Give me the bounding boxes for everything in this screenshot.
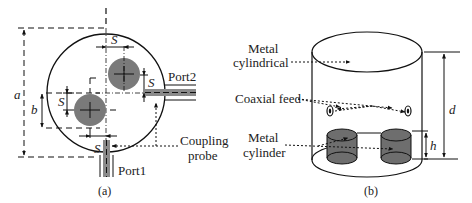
label-coupling-1: Coupling — [180, 133, 229, 148]
panel-b: d h Metal cylindrical Coaxial feed Metal… — [233, 32, 460, 198]
coupling-probe-callout — [112, 103, 178, 146]
inner-metal-cylinder-left — [327, 129, 357, 164]
upper-dielectric-disk — [108, 46, 140, 92]
label-s-right: S — [148, 75, 155, 90]
label-metal-cylindrical-1: Metal — [248, 41, 279, 56]
resonator-diagram: a b S — [0, 0, 472, 203]
dashed-bounding-box — [18, 8, 106, 157]
label-a: a — [14, 87, 21, 102]
coaxial-feed-left — [327, 106, 333, 116]
label-s-left: S — [58, 94, 65, 109]
coaxial-feed-right — [405, 106, 411, 116]
label-h: h — [430, 138, 437, 153]
dimension-b: b — [31, 94, 42, 127]
label-s-bottom: S — [94, 141, 101, 156]
label-port2: Port2 — [168, 69, 196, 84]
caption-a: (a) — [98, 184, 111, 198]
label-coaxial-feed: Coaxial feed — [235, 91, 302, 106]
label-metal-cylinder-1: Metal — [248, 130, 279, 145]
dimension-s-left: S — [58, 86, 74, 117]
label-port1: Port1 — [118, 163, 146, 178]
dimension-h: h — [412, 131, 437, 159]
caption-b: (b) — [364, 184, 378, 198]
label-b: b — [31, 102, 38, 117]
label-metal-cylindrical-2: cylindrical — [233, 55, 289, 70]
label-s-top: S — [111, 32, 118, 47]
label-d: d — [449, 102, 456, 117]
panel-a: a b S — [14, 8, 229, 198]
lower-dielectric-disk — [74, 94, 106, 126]
arrows-coaxial-feed — [298, 99, 405, 112]
label-metal-cylinder-2: cylinder — [243, 145, 286, 160]
inner-metal-cylinder-right — [381, 129, 411, 164]
port1-feedline: Port1 — [100, 140, 146, 178]
label-coupling-2: probe — [188, 148, 218, 163]
dimension-a: a — [14, 30, 24, 155]
